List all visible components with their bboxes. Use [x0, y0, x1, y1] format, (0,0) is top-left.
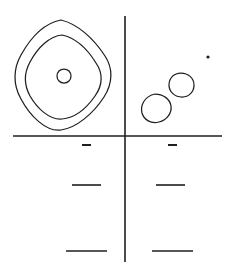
background [0, 0, 233, 276]
diagram-canvas [0, 0, 233, 276]
point-group [206, 55, 209, 58]
speck [206, 55, 209, 58]
contour-diagram [0, 0, 233, 276]
